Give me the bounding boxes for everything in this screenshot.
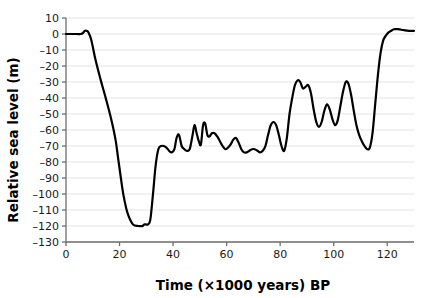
x-tick-label: 40 bbox=[166, 248, 180, 261]
y-tick-label: –110 bbox=[33, 204, 60, 217]
y-tick-label: –80 bbox=[40, 156, 60, 169]
y-tick-label: –10 bbox=[40, 44, 60, 57]
y-tick-label: –130 bbox=[33, 236, 60, 249]
figure-container: 100–10–20–30–40–50–60–70–80–90–100–110–1… bbox=[0, 0, 429, 298]
y-tick-label: –100 bbox=[33, 188, 60, 201]
y-tick-label: 0 bbox=[52, 28, 59, 41]
x-tick-label: 60 bbox=[220, 248, 234, 261]
x-tick-label: 120 bbox=[377, 248, 398, 261]
x-tick-labels: 020406080100120 bbox=[63, 248, 398, 261]
x-tick-label: 20 bbox=[113, 248, 127, 261]
sea-level-line-chart: 100–10–20–30–40–50–60–70–80–90–100–110–1… bbox=[0, 0, 429, 298]
y-tick-label: –90 bbox=[40, 172, 60, 185]
y-tick-label: –30 bbox=[40, 76, 60, 89]
x-tick-label: 80 bbox=[273, 248, 287, 261]
sea-level-curve bbox=[66, 29, 414, 226]
gridlines bbox=[66, 18, 414, 242]
y-tick-labels: 100–10–20–30–40–50–60–70–80–90–100–110–1… bbox=[33, 12, 60, 249]
x-axis-title: Time (×1000 years) BP bbox=[156, 277, 330, 293]
y-tick-label: –70 bbox=[40, 140, 60, 153]
y-axis-title: Relative sea level (m) bbox=[5, 57, 21, 223]
y-tick-label: –60 bbox=[40, 124, 60, 137]
y-axis bbox=[62, 18, 66, 242]
y-tick-label: –120 bbox=[33, 220, 60, 233]
y-tick-label: –50 bbox=[40, 108, 60, 121]
y-tick-label: 10 bbox=[45, 12, 59, 25]
data-line-series bbox=[66, 29, 414, 226]
x-tick-label: 0 bbox=[63, 248, 70, 261]
y-tick-label: –20 bbox=[40, 60, 60, 73]
y-tick-label: –40 bbox=[40, 92, 60, 105]
x-axis bbox=[66, 242, 414, 246]
x-tick-label: 100 bbox=[323, 248, 344, 261]
